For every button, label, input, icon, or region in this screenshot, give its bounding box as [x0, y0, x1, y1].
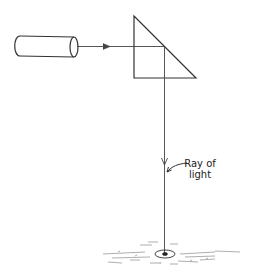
label-line-2: light: [178, 169, 222, 180]
ray-of-light-label: Ray of light: [178, 158, 222, 180]
ground-surface: [103, 242, 240, 264]
light-source-cylinder: [15, 36, 78, 57]
diagram-canvas: [0, 0, 254, 276]
prism-triangle: [134, 16, 196, 78]
label-line-1: Ray of: [178, 158, 222, 169]
incoming-ray: [77, 44, 164, 50]
